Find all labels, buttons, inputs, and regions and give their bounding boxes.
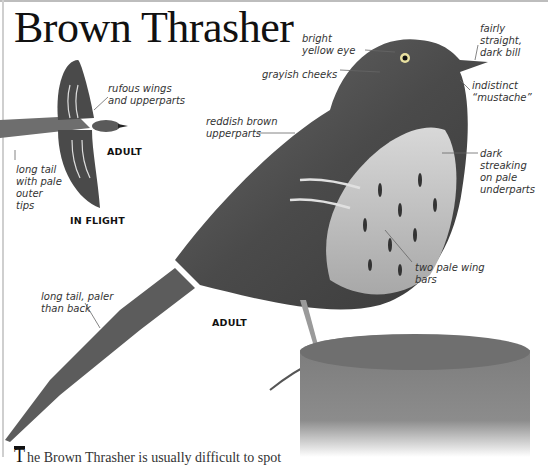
annotation-dark-streaking: dark streaking on pale underparts: [480, 148, 548, 196]
annotation-indistinct-mustache: indistinct “mustache”: [472, 80, 532, 104]
flight-caption: IN FLIGHT: [70, 215, 125, 226]
annotation-fairly-straight-bill: fairly straight, dark bill: [480, 23, 548, 59]
annotation-two-pale-wing-bars: two pale wing bars: [415, 262, 485, 286]
main-age-label: ADULT: [212, 317, 247, 328]
flight-age-label: ADULT: [107, 146, 142, 157]
annotation-long-tail-paler: long tail, paler than back: [41, 291, 113, 315]
body-text-line: he Brown Thrasher is usually difficult t…: [27, 450, 281, 465]
body-text: The Brown Thrasher is usually difficult …: [14, 446, 281, 466]
annotation-reddish-brown-upperparts: reddish brown upperparts: [206, 116, 278, 140]
annotation-long-tail-pale-tips: long tail with pale outer tips: [16, 164, 62, 212]
annotation-bright-yellow-eye: bright yellow eye: [302, 33, 355, 57]
annotation-rufous-wings: rufous wings and upperparts: [108, 83, 185, 107]
annotation-grayish-cheeks: grayish cheeks: [262, 69, 337, 81]
drop-cap: T: [14, 446, 25, 463]
